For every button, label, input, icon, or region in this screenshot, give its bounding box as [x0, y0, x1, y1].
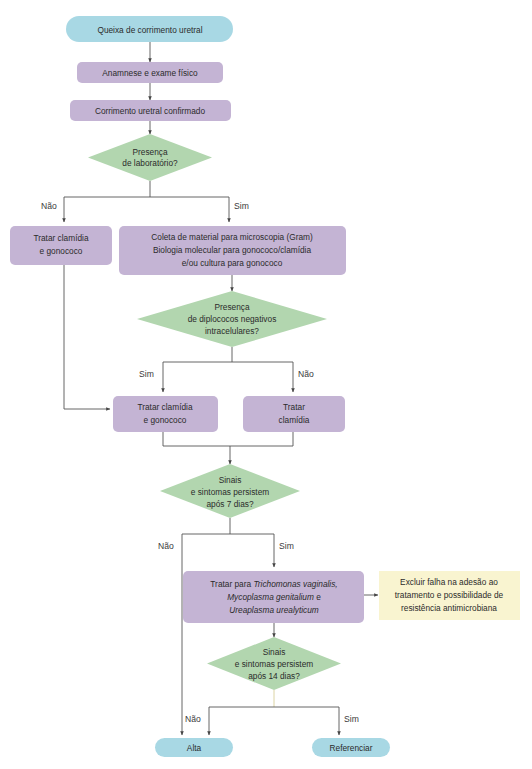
- edge-label-lab-sim: Sim: [234, 201, 249, 211]
- flowchart-canvas: Queixa de corrimento uretral Anamnese e …: [0, 0, 532, 769]
- node-start[interactable]: Queixa de corrimento uretral: [66, 16, 233, 42]
- edge-label-persist7-sim: Sim: [279, 541, 294, 551]
- edge-label-persist14-nao: Não: [185, 714, 201, 724]
- tratar-mid-line-1: Tratar clamídia: [137, 402, 192, 412]
- node-coleta[interactable]: Coleta de material para microscopia (Gra…: [119, 226, 346, 275]
- start-label: Queixa de corrimento uretral: [97, 25, 202, 35]
- tratar-left-line-1: Tratar clamídia: [33, 233, 88, 243]
- node-confirmado[interactable]: Corrimento uretral confirmado: [70, 100, 231, 121]
- node-tratar-clam-gono-left[interactable]: Tratar clamídia e gonococo: [10, 226, 112, 265]
- lab-decision-line-2: de laboratório?: [122, 158, 178, 168]
- node-tratar-trichomonas[interactable]: Tratar para Trichomonas vaginalis, Mycop…: [183, 571, 364, 623]
- diplococos-line-3: intracelulares?: [205, 326, 259, 336]
- trichomonas-line-1: Tratar para Trichomonas vaginalis,: [210, 579, 337, 589]
- node-referenciar[interactable]: Referenciar: [312, 738, 390, 757]
- trichomonas-line-3: Ureaplasma urealyticum: [229, 605, 319, 615]
- coleta-line-1: Coleta de material para microscopia (Gra…: [151, 232, 313, 242]
- tratar-clamidia-line-1: Tratar: [283, 402, 305, 412]
- edge-leftbox-to-midbox: [64, 265, 110, 409]
- persist7-line-1: Sinais: [219, 475, 242, 485]
- trichomonas-line-1-seg-2: Trichomonas vaginalis,: [253, 579, 337, 589]
- tratar-clamidia-line-2: clamídia: [279, 415, 310, 425]
- node-diplococos-decision[interactable]: Presença de diplococos negativos intrace…: [137, 291, 327, 347]
- node-persist14-decision[interactable]: Sinais e sintomas persistem após 14 dias…: [207, 637, 341, 690]
- coleta-line-3: e/ou cultura para gonococo: [182, 258, 283, 268]
- flowchart-svg: Queixa de corrimento uretral Anamnese e …: [0, 0, 532, 769]
- connectors-layer: [64, 42, 378, 735]
- alta-label: Alta: [187, 743, 202, 753]
- diplococos-line-2: de diplococos negativos: [188, 314, 277, 324]
- persist14-line-1: Sinais: [263, 647, 286, 657]
- tratar-mid-line-2: e gonococo: [144, 415, 187, 425]
- trichomonas-line-1-seg-1: Tratar para: [210, 579, 253, 589]
- persist7-line-2: e sintomas persistem: [191, 487, 269, 497]
- excluir-falha-line-2: tratamento e possibilidade de: [395, 590, 504, 600]
- node-tratar-clamidia[interactable]: Tratar clamídia: [243, 396, 345, 432]
- node-lab-decision[interactable]: Presença de laboratório?: [88, 134, 212, 181]
- persist14-line-2: e sintomas persistem: [235, 659, 313, 669]
- edge-label-persist7-nao: Não: [158, 541, 174, 551]
- node-alta[interactable]: Alta: [155, 738, 233, 757]
- coleta-line-2: Biologia molecular para gonococo/clamídi…: [153, 245, 312, 255]
- node-tratar-clam-gono-mid[interactable]: Tratar clamídia e gonococo: [113, 396, 218, 432]
- node-persist7-decision[interactable]: Sinais e sintomas persistem após 7 dias?: [160, 464, 300, 518]
- persist14-line-3: após 14 dias?: [248, 671, 300, 681]
- edge-label-diplo-sim: Sim: [139, 369, 154, 379]
- edge-label-persist14-sim: Sim: [344, 714, 359, 724]
- excluir-falha-line-1: Excluir falha na adesão ao: [400, 577, 498, 587]
- referenciar-label: Referenciar: [330, 743, 373, 753]
- diplococos-line-1: Presença: [214, 302, 249, 312]
- edge-label-lab-nao: Não: [41, 201, 57, 211]
- excluir-falha-line-3: resistência antimicrobiana: [401, 603, 497, 613]
- trichomonas-line-2: Mycoplasma genitalium e: [227, 592, 321, 602]
- trichomonas-line-2-seg-2: e: [314, 592, 321, 602]
- anamnese-label: Anamnese e exame físico: [102, 68, 198, 78]
- lab-decision-line-1: Presença: [132, 147, 167, 157]
- trichomonas-line-3-seg-1: Ureaplasma urealyticum: [229, 605, 319, 615]
- edge-label-diplo-nao: Não: [298, 369, 314, 379]
- tratar-left-line-2: e gonococo: [40, 246, 83, 256]
- confirmado-label: Corrimento uretral confirmado: [95, 106, 206, 116]
- trichomonas-line-2-seg-1: Mycoplasma genitalium: [227, 592, 314, 602]
- node-anamnese[interactable]: Anamnese e exame físico: [77, 62, 223, 83]
- node-excluir-falha[interactable]: Excluir falha na adesão ao tratamento e …: [379, 571, 520, 620]
- persist7-line-3: após 7 dias?: [206, 499, 253, 509]
